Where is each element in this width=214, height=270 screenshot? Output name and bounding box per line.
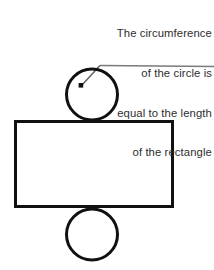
callout-anchor-dot: [79, 83, 84, 88]
diagram-background: [0, 0, 214, 270]
diagram-svg: [0, 0, 214, 270]
diagram-canvas: The circumference of the circle is equal…: [0, 0, 214, 270]
